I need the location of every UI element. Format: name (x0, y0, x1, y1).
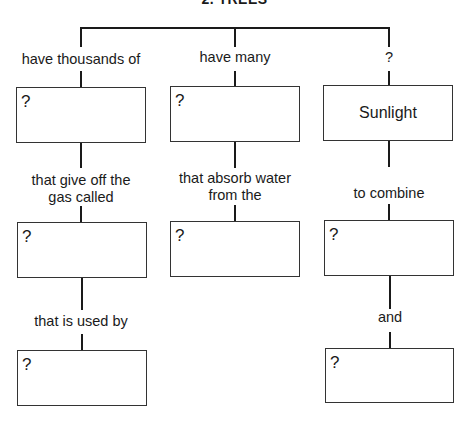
left-label-used-by: that is used by (34, 313, 128, 330)
right-box-2[interactable]: ? (324, 220, 454, 276)
diagram-title: 2. TREES (0, 0, 469, 7)
right-box-2-text: ? (329, 225, 338, 245)
label-have-many: have many (200, 49, 271, 66)
left-box-3-text: ? (22, 355, 31, 375)
top-bracket-left-drop (80, 27, 82, 47)
connector-left-top (80, 71, 82, 88)
label-have-thousands-of: have thousands of (22, 51, 141, 68)
right-label-to-combine: to combine (354, 185, 425, 202)
label-right-question: ? (385, 49, 393, 66)
left-box-2-text: ? (22, 227, 31, 247)
middle-box-2[interactable]: ? (170, 221, 300, 277)
middle-box-1-text: ? (175, 91, 184, 111)
middle-label-absorb-water: that absorb water from the (179, 170, 291, 204)
left-connector-2 (80, 206, 82, 223)
left-box-1[interactable]: ? (16, 87, 146, 143)
left-box-2[interactable]: ? (17, 222, 147, 278)
middle-label-line-2: from the (179, 187, 291, 204)
left-connector-3 (81, 278, 83, 310)
right-box-3[interactable]: ? (325, 348, 454, 403)
right-box-1-text: Sunlight (324, 104, 452, 122)
right-box-sunlight[interactable]: Sunlight (323, 85, 453, 141)
left-label-give-off-gas: that give off the gas called (32, 172, 131, 206)
left-box-1-text: ? (21, 92, 30, 112)
right-connector-4 (389, 332, 391, 349)
middle-box-2-text: ? (175, 226, 184, 246)
top-bracket-middle-drop (234, 27, 236, 47)
right-connector-1 (388, 141, 390, 167)
middle-label-line-1: that absorb water (179, 170, 291, 187)
right-connector-3 (389, 276, 391, 309)
right-label-and: and (378, 309, 402, 326)
connector-middle-top (234, 71, 236, 87)
left-connector-1 (80, 143, 82, 168)
top-bracket-right-drop (388, 27, 390, 47)
left-box-3[interactable]: ? (17, 350, 147, 406)
middle-box-1[interactable]: ? (170, 86, 300, 142)
left-label-line-2: gas called (32, 189, 131, 206)
left-label-line-1: that give off the (32, 172, 131, 189)
right-box-3-text: ? (330, 353, 339, 373)
left-connector-4 (81, 334, 83, 351)
middle-connector-2 (234, 205, 236, 222)
right-connector-2 (388, 204, 390, 221)
middle-connector-1 (234, 142, 236, 168)
